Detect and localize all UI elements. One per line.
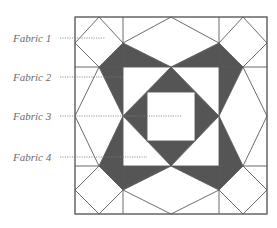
fabric-2-label: Fabric 2 bbox=[12, 71, 52, 83]
fabric-3-label: Fabric 3 bbox=[12, 110, 52, 122]
fabric-4-label: Fabric 4 bbox=[12, 151, 52, 163]
quilt-block-diagram: Fabric 1 Fabric 2 Fabric 3 Fabric 4 bbox=[0, 0, 277, 228]
fabric-1-label: Fabric 1 bbox=[12, 32, 51, 44]
center-light-square bbox=[147, 92, 195, 141]
